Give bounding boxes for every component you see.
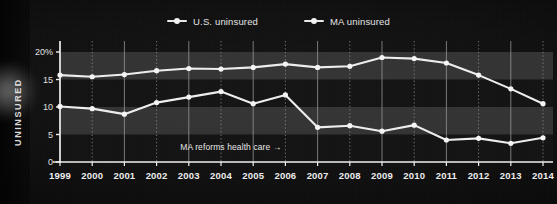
data-point[interactable]	[251, 65, 256, 70]
x-tick-label-2000: 2000	[81, 170, 103, 181]
x-tick-label-2013: 2013	[500, 170, 522, 181]
data-point[interactable]	[90, 74, 95, 79]
data-point[interactable]	[315, 65, 320, 70]
data-point[interactable]	[218, 66, 223, 71]
data-point[interactable]	[154, 100, 159, 105]
x-tick-label-2012: 2012	[468, 170, 490, 181]
data-point[interactable]	[540, 101, 545, 106]
data-point[interactable]	[154, 68, 159, 73]
data-point[interactable]	[379, 129, 384, 134]
data-point[interactable]	[283, 62, 288, 67]
chart-screenshot: U.S. uninsured MA uninsured UNINSURED 20…	[0, 0, 557, 204]
data-point[interactable]	[508, 86, 513, 91]
data-point[interactable]	[444, 60, 449, 65]
data-point[interactable]	[412, 123, 417, 128]
data-point[interactable]	[476, 136, 481, 141]
x-tick-label-2009: 2009	[371, 170, 393, 181]
data-point[interactable]	[347, 123, 352, 128]
data-point[interactable]	[444, 137, 449, 142]
x-tick-label-2002: 2002	[146, 170, 168, 181]
line-chart: 20%1510501999200020012002200320042005200…	[0, 0, 557, 204]
data-point[interactable]	[283, 92, 288, 97]
data-point[interactable]	[379, 55, 384, 60]
data-point[interactable]	[57, 104, 62, 109]
data-point[interactable]	[412, 56, 417, 61]
data-point[interactable]	[540, 135, 545, 140]
data-point[interactable]	[122, 112, 127, 117]
y-tick-label-10: 10	[43, 102, 53, 112]
data-point[interactable]	[186, 95, 191, 100]
x-tick-label-2005: 2005	[242, 170, 264, 181]
data-point[interactable]	[90, 106, 95, 111]
plot-area: 20%1510501999200020012002200320042005200…	[0, 0, 557, 204]
x-tick-label-2001: 2001	[113, 170, 135, 181]
x-tick-label-2004: 2004	[210, 170, 232, 181]
data-point[interactable]	[347, 64, 352, 69]
y-tick-label-0: 0	[48, 157, 53, 167]
data-point[interactable]	[218, 89, 223, 94]
x-tick-label-2010: 2010	[403, 170, 425, 181]
y-tick-label-15: 15	[43, 75, 53, 85]
data-point[interactable]	[476, 73, 481, 78]
x-tick-label-2011: 2011	[436, 170, 458, 181]
data-point[interactable]	[186, 66, 191, 71]
y-tick-label-5: 5	[48, 130, 53, 140]
x-tick-label-1999: 1999	[49, 170, 71, 181]
x-tick-label-2014: 2014	[532, 170, 554, 181]
x-tick-label-2006: 2006	[274, 170, 296, 181]
data-point[interactable]	[122, 72, 127, 77]
data-point[interactable]	[57, 73, 62, 78]
data-point[interactable]	[508, 141, 513, 146]
y-tick-label-20: 20%	[35, 47, 53, 57]
annotation-ma-reform: MA reforms health care →	[180, 142, 281, 152]
x-tick-label-2008: 2008	[339, 170, 361, 181]
x-tick-label-2007: 2007	[307, 170, 329, 181]
x-tick-label-2003: 2003	[178, 170, 200, 181]
data-point[interactable]	[315, 125, 320, 130]
data-point[interactable]	[251, 101, 256, 106]
